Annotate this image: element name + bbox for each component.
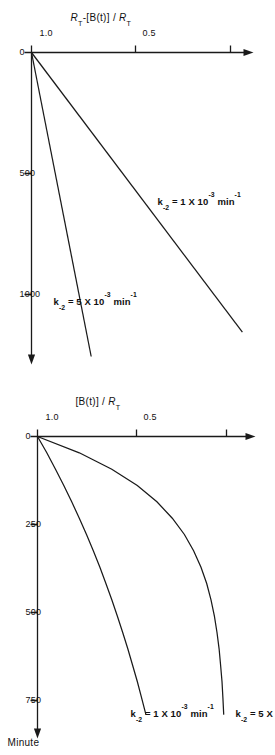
decay-x-ticks [30,436,37,700]
decay-series-5e-3 [37,436,223,714]
accumulation-y-axis-title: RT-[B(t)] / RT [70,12,131,22]
decay-curve-label-1e-3: k-2 = 1 X 10-3 min-1 [130,708,213,718]
accumulation-y-axis [31,48,253,55]
accumulation-x-tick-0: 0 [19,47,24,56]
decay-x-tick-750: 750 [25,695,41,704]
accumulation-x-tick-1000: 1000 [19,289,40,298]
decay-x-axis-title: Minute [7,737,39,747]
decay-y-axis-title: [B(t)] / RT [75,396,120,406]
accumulation-x-tick-500: 500 [19,168,35,177]
decay-x-tick-0: 0 [25,431,30,440]
accumulation-y-tick-1-0: 1.0 [39,28,52,37]
accumulation-x-axis [27,52,34,364]
decay-series-1e-3 [37,436,145,714]
decay-curve-label-5e-3: k-2 = 5 X 10-3 min [235,708,275,718]
decay-y-ticks [37,429,226,436]
accumulation-y-tick-0-5: 0.5 [142,28,155,37]
accumulation-curve-label-5e-3: k-2 = 5 X 10-3 min-1 [53,296,136,306]
accumulation-curve-label-1e-3: k-2 = 1 X 10-3 min-1 [157,196,240,206]
decay-panel-plot [0,378,275,755]
decay-x-tick-250: 250 [25,519,41,528]
figure-canvas: 1.0 0.5 0 500 1000 RT-[B(t)] / RT k-2 = … [0,0,275,755]
decay-x-axis [33,436,40,738]
decay-y-axis [37,432,255,439]
decay-panel: 1.0 0.5 0 250 500 750 [B(t)] / RT Minute… [0,378,275,755]
decay-y-tick-0-5: 0.5 [143,412,156,421]
accumulation-panel: 1.0 0.5 0 500 1000 RT-[B(t)] / RT k-2 = … [0,0,275,378]
decay-y-tick-1-0: 1.0 [45,412,58,421]
accumulation-y-ticks [31,45,230,52]
accumulation-panel-plot [0,0,275,378]
decay-x-tick-500: 500 [25,607,41,616]
